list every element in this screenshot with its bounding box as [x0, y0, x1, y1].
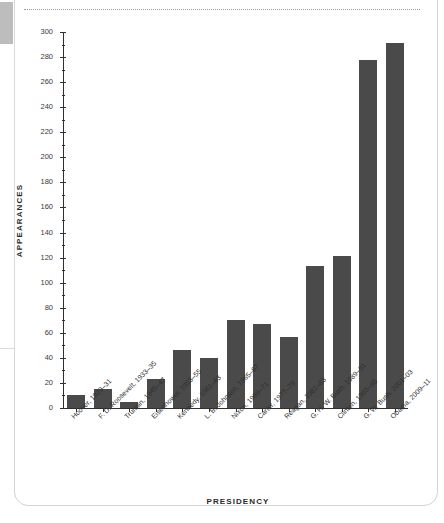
y-tick-label: 240 [27, 102, 53, 111]
y-tick-minor [62, 270, 66, 271]
y-tick-major [60, 32, 66, 33]
y-tick-major [60, 207, 66, 208]
y-tick-major [60, 333, 66, 334]
y-tick-major [60, 383, 66, 384]
y-tick-label: 220 [27, 127, 53, 136]
y-tick-label: 260 [27, 77, 53, 86]
y-tick-minor [62, 395, 66, 396]
y-tick-minor [62, 245, 66, 246]
y-tick-major [60, 408, 66, 409]
y-tick-major [60, 233, 66, 234]
x-axis-title: PRESIDENCY [78, 497, 398, 506]
y-tick-label: 40 [27, 353, 53, 362]
y-tick-major [60, 283, 66, 284]
y-tick-major [60, 82, 66, 83]
y-tick-label: 80 [27, 303, 53, 312]
y-tick-label: 180 [27, 177, 53, 186]
y-tick-major [60, 157, 66, 158]
y-tick-minor [62, 295, 66, 296]
y-tick-label: 140 [27, 228, 53, 237]
y-tick-major [60, 258, 66, 259]
y-tick-major [60, 182, 66, 183]
y-tick-minor [62, 170, 66, 171]
y-tick-label: 300 [27, 27, 53, 36]
bar-chart: APPEARANCES PRESIDENCY 02040608010012014… [0, 0, 444, 523]
y-tick-label: 60 [27, 328, 53, 337]
y-tick-label: 160 [27, 202, 53, 211]
y-tick-minor [62, 345, 66, 346]
y-tick-minor [62, 320, 66, 321]
y-tick-minor [62, 120, 66, 121]
y-tick-major [60, 358, 66, 359]
y-tick-minor [62, 220, 66, 221]
y-tick-minor [62, 70, 66, 71]
y-tick-minor [62, 45, 66, 46]
y-tick-label: 280 [27, 52, 53, 61]
bar [386, 43, 404, 408]
y-tick-label: 120 [27, 253, 53, 262]
y-tick-minor [62, 95, 66, 96]
bar [359, 60, 377, 408]
y-tick-major [60, 107, 66, 108]
y-tick-label: 0 [27, 403, 53, 412]
y-tick-minor [62, 145, 66, 146]
y-tick-major [60, 308, 66, 309]
y-tick-label: 100 [27, 278, 53, 287]
y-tick-minor [62, 195, 66, 196]
y-tick-label: 20 [27, 378, 53, 387]
y-tick-label: 200 [27, 152, 53, 161]
y-axis-title: APPEARANCES [15, 161, 24, 281]
y-tick-major [60, 132, 66, 133]
y-tick-major [60, 57, 66, 58]
y-tick-minor [62, 370, 66, 371]
